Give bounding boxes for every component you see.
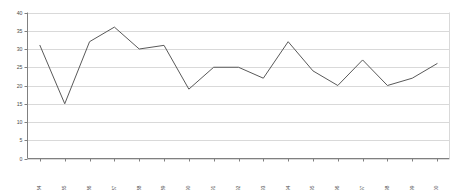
x-axis-tick-label: 1995 (309, 185, 315, 190)
x-axis-tick-label: 1997 (359, 185, 365, 190)
x-axis-tick-label: 1996 (334, 185, 340, 190)
y-axis-tick-label: 10 (17, 119, 23, 125)
x-axis-tick-label: 1990 (185, 185, 191, 190)
x-axis-tick-label: 1999 (409, 185, 415, 190)
y-axis-tick-label: 30 (17, 46, 23, 52)
y-axis-tick-label: 20 (17, 83, 23, 89)
x-axis-tick-label: 1991 (210, 185, 216, 190)
x-axis-tick-label: 1988 (136, 185, 142, 190)
chart-canvas: 0510152025303540 19841985198619871988198… (0, 0, 456, 190)
y-axis-tick-label: 40 (17, 10, 23, 16)
y-axis-tick-label: 15 (17, 101, 23, 107)
x-axis-tick-label: 1993 (260, 185, 266, 190)
x-axis-tick-label: 1984 (36, 185, 42, 190)
x-axis-tick-label: 2000 (433, 185, 439, 190)
line-chart: 0510152025303540 19841985198619871988198… (0, 0, 456, 190)
x-axis-tick-label: 1998 (384, 185, 390, 190)
x-axis-tick-label: 1989 (160, 185, 166, 190)
y-axis-tick-label: 5 (20, 137, 23, 143)
x-axis-tick-label: 1985 (61, 185, 67, 190)
y-axis-tick-label: 0 (20, 156, 23, 162)
x-axis-tick-label: 1986 (86, 185, 92, 190)
y-axis-tick-label: 25 (17, 64, 23, 70)
x-axis-tick-label: 1987 (111, 185, 117, 190)
x-axis-tick-label: 1994 (285, 185, 291, 190)
x-axis-tick-label: 1992 (235, 185, 241, 190)
y-axis-tick-label: 35 (17, 28, 23, 34)
